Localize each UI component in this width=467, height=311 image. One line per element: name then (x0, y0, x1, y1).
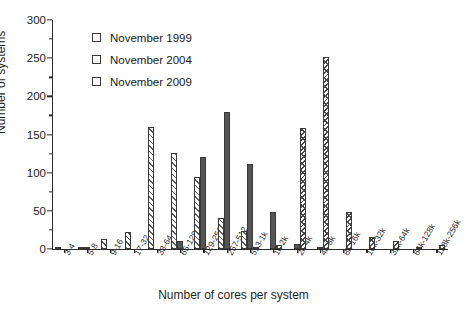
bar-november-2009 (276, 245, 282, 249)
y-tick-label: 100 (6, 167, 46, 179)
bar-group (308, 20, 331, 249)
bar-november-1999 (101, 239, 107, 249)
y-axis-title: Number of systems (0, 31, 8, 134)
bar-november-2009 (323, 57, 329, 249)
legend-item: November 1999 (92, 28, 192, 47)
legend-label: November 2009 (110, 76, 192, 88)
bar-group (425, 20, 448, 249)
bar-group (378, 20, 401, 249)
legend-swatch-icon (92, 55, 101, 64)
bar-november-1999 (125, 232, 131, 249)
bar-november-1999 (148, 127, 154, 249)
legend-label: November 2004 (110, 54, 192, 66)
bar-november-2009 (369, 237, 375, 249)
bar-november-1999 (171, 153, 177, 249)
legend-label: November 1999 (110, 32, 192, 44)
bar-november-2009 (346, 212, 352, 249)
bar-november-2009 (393, 241, 399, 249)
bar-november-2004 (200, 157, 206, 249)
bar-november-2004 (177, 241, 183, 249)
y-tick-label: 250 (6, 52, 46, 64)
bar-group (401, 20, 424, 249)
y-tick-label: 200 (6, 90, 46, 102)
bar-november-1999 (55, 247, 61, 249)
x-axis-title: Number of cores per system (0, 288, 467, 302)
bar-november-2004 (84, 247, 90, 249)
bar-group (215, 20, 238, 249)
bar-november-2009 (253, 247, 259, 249)
bar-november-2004 (270, 212, 276, 249)
y-tick-label: 300 (6, 14, 46, 26)
legend: November 1999November 2004November 2009 (92, 28, 192, 94)
bar-november-2004 (247, 164, 253, 249)
bar-group (285, 20, 308, 249)
legend-swatch-icon (92, 77, 101, 86)
bar-group (192, 20, 215, 249)
y-tick-label: 0 (6, 243, 46, 255)
bar-november-2009 (416, 247, 422, 249)
bar-november-2009 (439, 245, 445, 249)
bar-group (262, 20, 285, 249)
y-tick-label: 150 (6, 129, 46, 141)
y-tick-label: 50 (6, 205, 46, 217)
bar-group (355, 20, 378, 249)
bar-chart: Number of systems Number of cores per sy… (0, 0, 467, 311)
bar-group (52, 20, 75, 249)
legend-swatch-icon (92, 33, 101, 42)
bar-group (238, 20, 261, 249)
bar-november-2004 (224, 112, 230, 249)
bar-november-2009 (300, 128, 306, 249)
bar-group (332, 20, 355, 249)
legend-item: November 2009 (92, 72, 192, 91)
legend-item: November 2004 (92, 50, 192, 69)
